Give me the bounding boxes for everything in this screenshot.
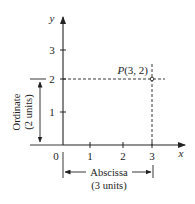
coordinate-diagram: 3 2 1 1 2 3 0 y x P(3, 2) Ordinate (2 un… [0, 0, 195, 204]
x-tick-label-2: 2 [120, 150, 126, 162]
ordinate-label: Ordinate [11, 93, 22, 130]
abscissa-units: (3 units) [91, 180, 127, 192]
abscissa-label: Abscissa [90, 167, 128, 178]
diagram-canvas: 3 2 1 1 2 3 0 y x P(3, 2) Ordinate (2 un… [0, 0, 195, 204]
point-p-marker [150, 77, 154, 81]
y-tick-label-1: 1 [49, 106, 55, 118]
ordinate-units: (2 units) [23, 94, 35, 130]
ordinate-label-group: Ordinate (2 units) [11, 93, 35, 130]
x-axis-label: x [178, 147, 184, 159]
y-axis-label: y [49, 12, 55, 24]
x-tick-label-1: 1 [87, 150, 93, 162]
y-tick-label-3: 3 [49, 44, 55, 56]
point-p-label: P(3, 2) [116, 64, 148, 77]
y-tick-label-2: 2 [49, 73, 55, 85]
x-tick-label-3: 3 [149, 150, 155, 162]
point-p-coords: (3, 2) [124, 64, 148, 77]
origin-label: 0 [53, 150, 59, 162]
